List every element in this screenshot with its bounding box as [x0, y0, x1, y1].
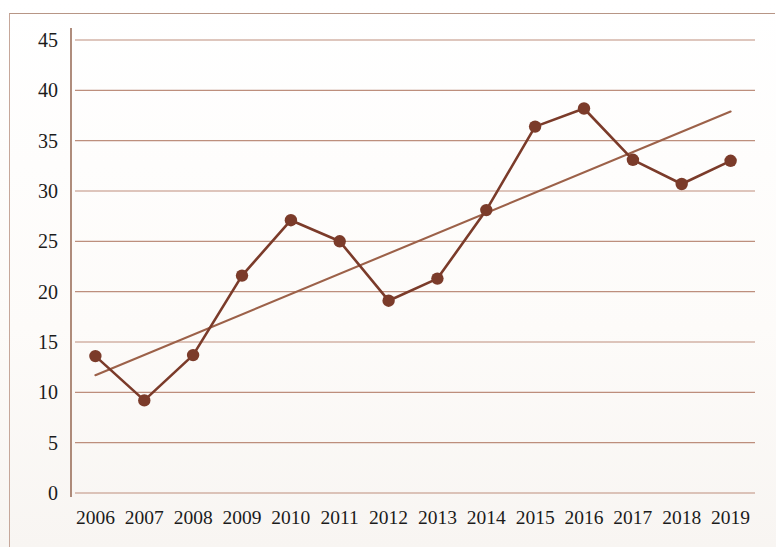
x-axis-label: 2019: [711, 507, 750, 528]
data-point-marker: [382, 295, 394, 307]
gridlines: [75, 40, 755, 493]
x-axis-label: 2008: [174, 507, 213, 528]
data-point-marker: [236, 269, 248, 281]
x-axis-label: 2013: [418, 507, 457, 528]
y-axis-label: 45: [38, 29, 58, 51]
x-axis-label: 2017: [613, 507, 652, 528]
data-point-marker: [89, 350, 101, 362]
data-point-marker: [480, 204, 492, 216]
data-point-marker: [285, 214, 297, 226]
x-axis-label: 2014: [467, 507, 506, 528]
y-axis-tick-labels: 051015202530354045: [38, 29, 58, 504]
y-axis-label: 10: [38, 381, 58, 403]
x-axis-label: 2016: [565, 507, 604, 528]
x-axis-tick-labels: 2006200720082009201020112012201320142015…: [76, 507, 750, 528]
trendline-series: [95, 112, 730, 376]
y-axis-label: 5: [48, 432, 58, 454]
x-axis-label: 2018: [662, 507, 701, 528]
y-axis-label: 25: [38, 230, 58, 252]
data-point-marker: [529, 120, 541, 132]
x-axis-label: 2011: [321, 507, 359, 528]
data-point-marker: [138, 394, 150, 406]
x-axis-label: 2015: [516, 507, 555, 528]
y-axis-label: 35: [38, 130, 58, 152]
data-point-marker: [627, 154, 639, 166]
data-point-marker: [431, 272, 443, 284]
x-axis-label: 2010: [271, 507, 310, 528]
trendline: [95, 112, 730, 376]
x-axis-label: 2009: [223, 507, 262, 528]
data-point-marker: [578, 102, 590, 114]
y-axis-label: 40: [38, 79, 58, 101]
data-point-marker: [676, 178, 688, 190]
data-point-marker: [724, 155, 736, 167]
x-axis-label: 2007: [125, 507, 164, 528]
y-axis-label: 30: [38, 180, 58, 202]
line-chart: 051015202530354045 200620072008200920102…: [0, 0, 776, 547]
data-point-marker: [187, 349, 199, 361]
x-axis-label: 2012: [369, 507, 408, 528]
data-point-marker: [334, 235, 346, 247]
page-background: 051015202530354045 200620072008200920102…: [0, 0, 776, 547]
x-axis-label: 2006: [76, 507, 115, 528]
y-axis-label: 15: [38, 331, 58, 353]
y-axis-label: 20: [38, 281, 58, 303]
y-axis-label: 0: [48, 482, 58, 504]
